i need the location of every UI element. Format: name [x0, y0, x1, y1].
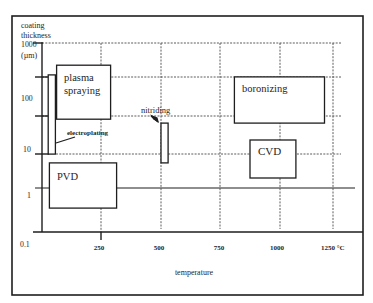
y-tick-label-100: 100: [21, 94, 33, 103]
y-tick-label-10: 10: [23, 145, 31, 154]
label-plasma-spraying-line1: plasma: [64, 72, 94, 83]
y-axis-title-line1: coating: [21, 21, 45, 30]
y-axis-title-line2: thickness: [21, 31, 51, 40]
label-pvd: PVD: [57, 171, 78, 182]
region-box-pvd: [49, 163, 116, 208]
region-box-electroplating: [48, 75, 55, 154]
x-axis-title: temperature: [175, 268, 214, 277]
x-tick-label-1000: 1000: [270, 244, 285, 252]
label-plasma-spraying-line2: spraying: [64, 85, 101, 96]
x-tick-label-1250: 1250 °C: [321, 244, 345, 252]
label-cvd: CVD: [258, 145, 281, 157]
label-boronizing: boronizing: [242, 83, 288, 94]
x-tick-label-750: 750: [214, 244, 225, 252]
y-tick-label-1000: 1000: [21, 40, 37, 49]
x-tick-label-500: 500: [154, 244, 165, 252]
y-axis-unit: (µm): [21, 51, 37, 60]
label-electroplating: electroplating: [67, 129, 109, 137]
y-tick-label-1: 1: [27, 191, 31, 200]
region-box-nitriding: [161, 123, 168, 163]
y-tick-label-0.1: 0.1: [20, 240, 30, 249]
x-tick-label-250: 250: [94, 244, 105, 252]
coating-process-chart: plasma spraying electroplating nitriding…: [0, 0, 373, 303]
label-nitriding: nitriding: [141, 105, 171, 115]
